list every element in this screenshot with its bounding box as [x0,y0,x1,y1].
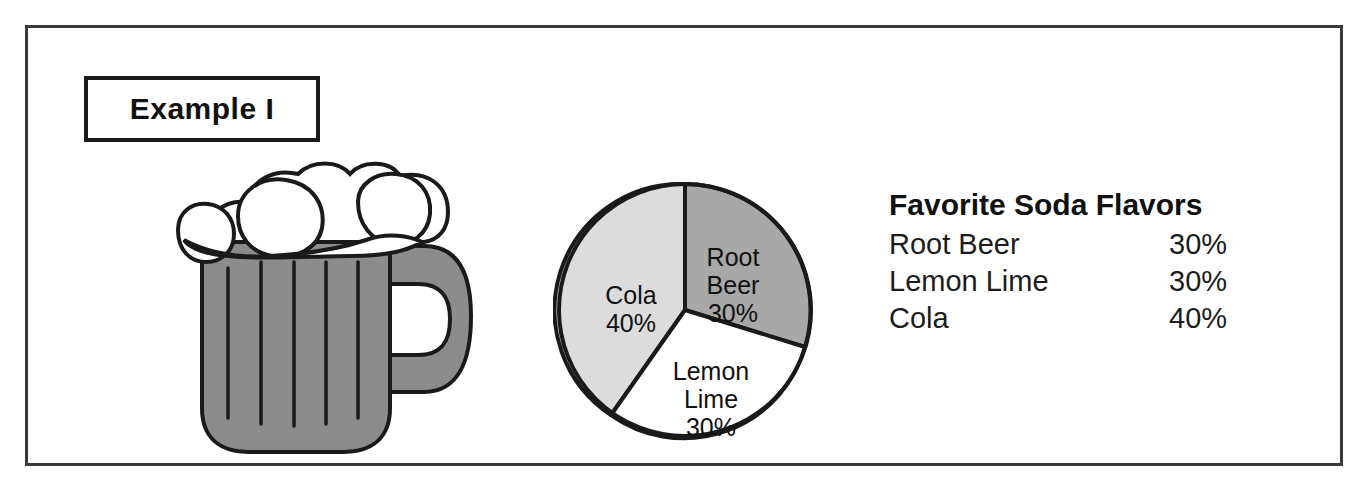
legend-name-cola: Cola [889,302,1169,335]
legend-value-lemon-lime: 30% [1169,265,1227,298]
legend-title: Favorite Soda Flavors [889,188,1269,222]
example-label-box: Example I [84,76,320,142]
mug-body [202,238,390,452]
page-root: Example I [0,0,1367,490]
legend-name-root-beer: Root Beer [889,228,1169,261]
pie-label-root-beer-line2: Beer [707,271,760,299]
legend-name-lemon-lime: Lemon Lime [889,265,1169,298]
pie-label-root-beer-value: 30% [708,299,758,327]
mug-foam [178,164,448,263]
pie-chart: Root Beer 30% Lemon Lime 30% Cola 40% [553,178,823,448]
pie-label-cola-line1: Cola [605,281,657,309]
legend-value-root-beer: 30% [1169,228,1227,261]
legend-table: Favorite Soda Flavors Root Beer 30% Lemo… [889,188,1269,335]
beer-mug-icon [166,156,476,461]
legend-row-lemon-lime: Lemon Lime 30% [889,265,1269,298]
legend-row-root-beer: Root Beer 30% [889,228,1269,261]
worksheet-frame: Example I [25,25,1343,466]
legend-value-cola: 40% [1169,302,1227,335]
pie-label-lemon-lime-line1: Lemon [673,357,749,385]
mug-handle-hole [388,284,450,355]
example-label-text: Example I [130,92,275,126]
pie-chart-svg: Root Beer 30% Lemon Lime 30% Cola 40% [553,178,823,448]
pie-label-lemon-lime-line2: Lime [684,385,738,413]
pie-label-root-beer-line1: Root [707,243,760,271]
legend-row-cola: Cola 40% [889,302,1269,335]
pie-label-cola-value: 40% [606,309,656,337]
foam-center-bubble [238,179,323,256]
beer-mug-illustration [166,156,476,461]
pie-label-lemon-lime-value: 30% [686,413,736,441]
